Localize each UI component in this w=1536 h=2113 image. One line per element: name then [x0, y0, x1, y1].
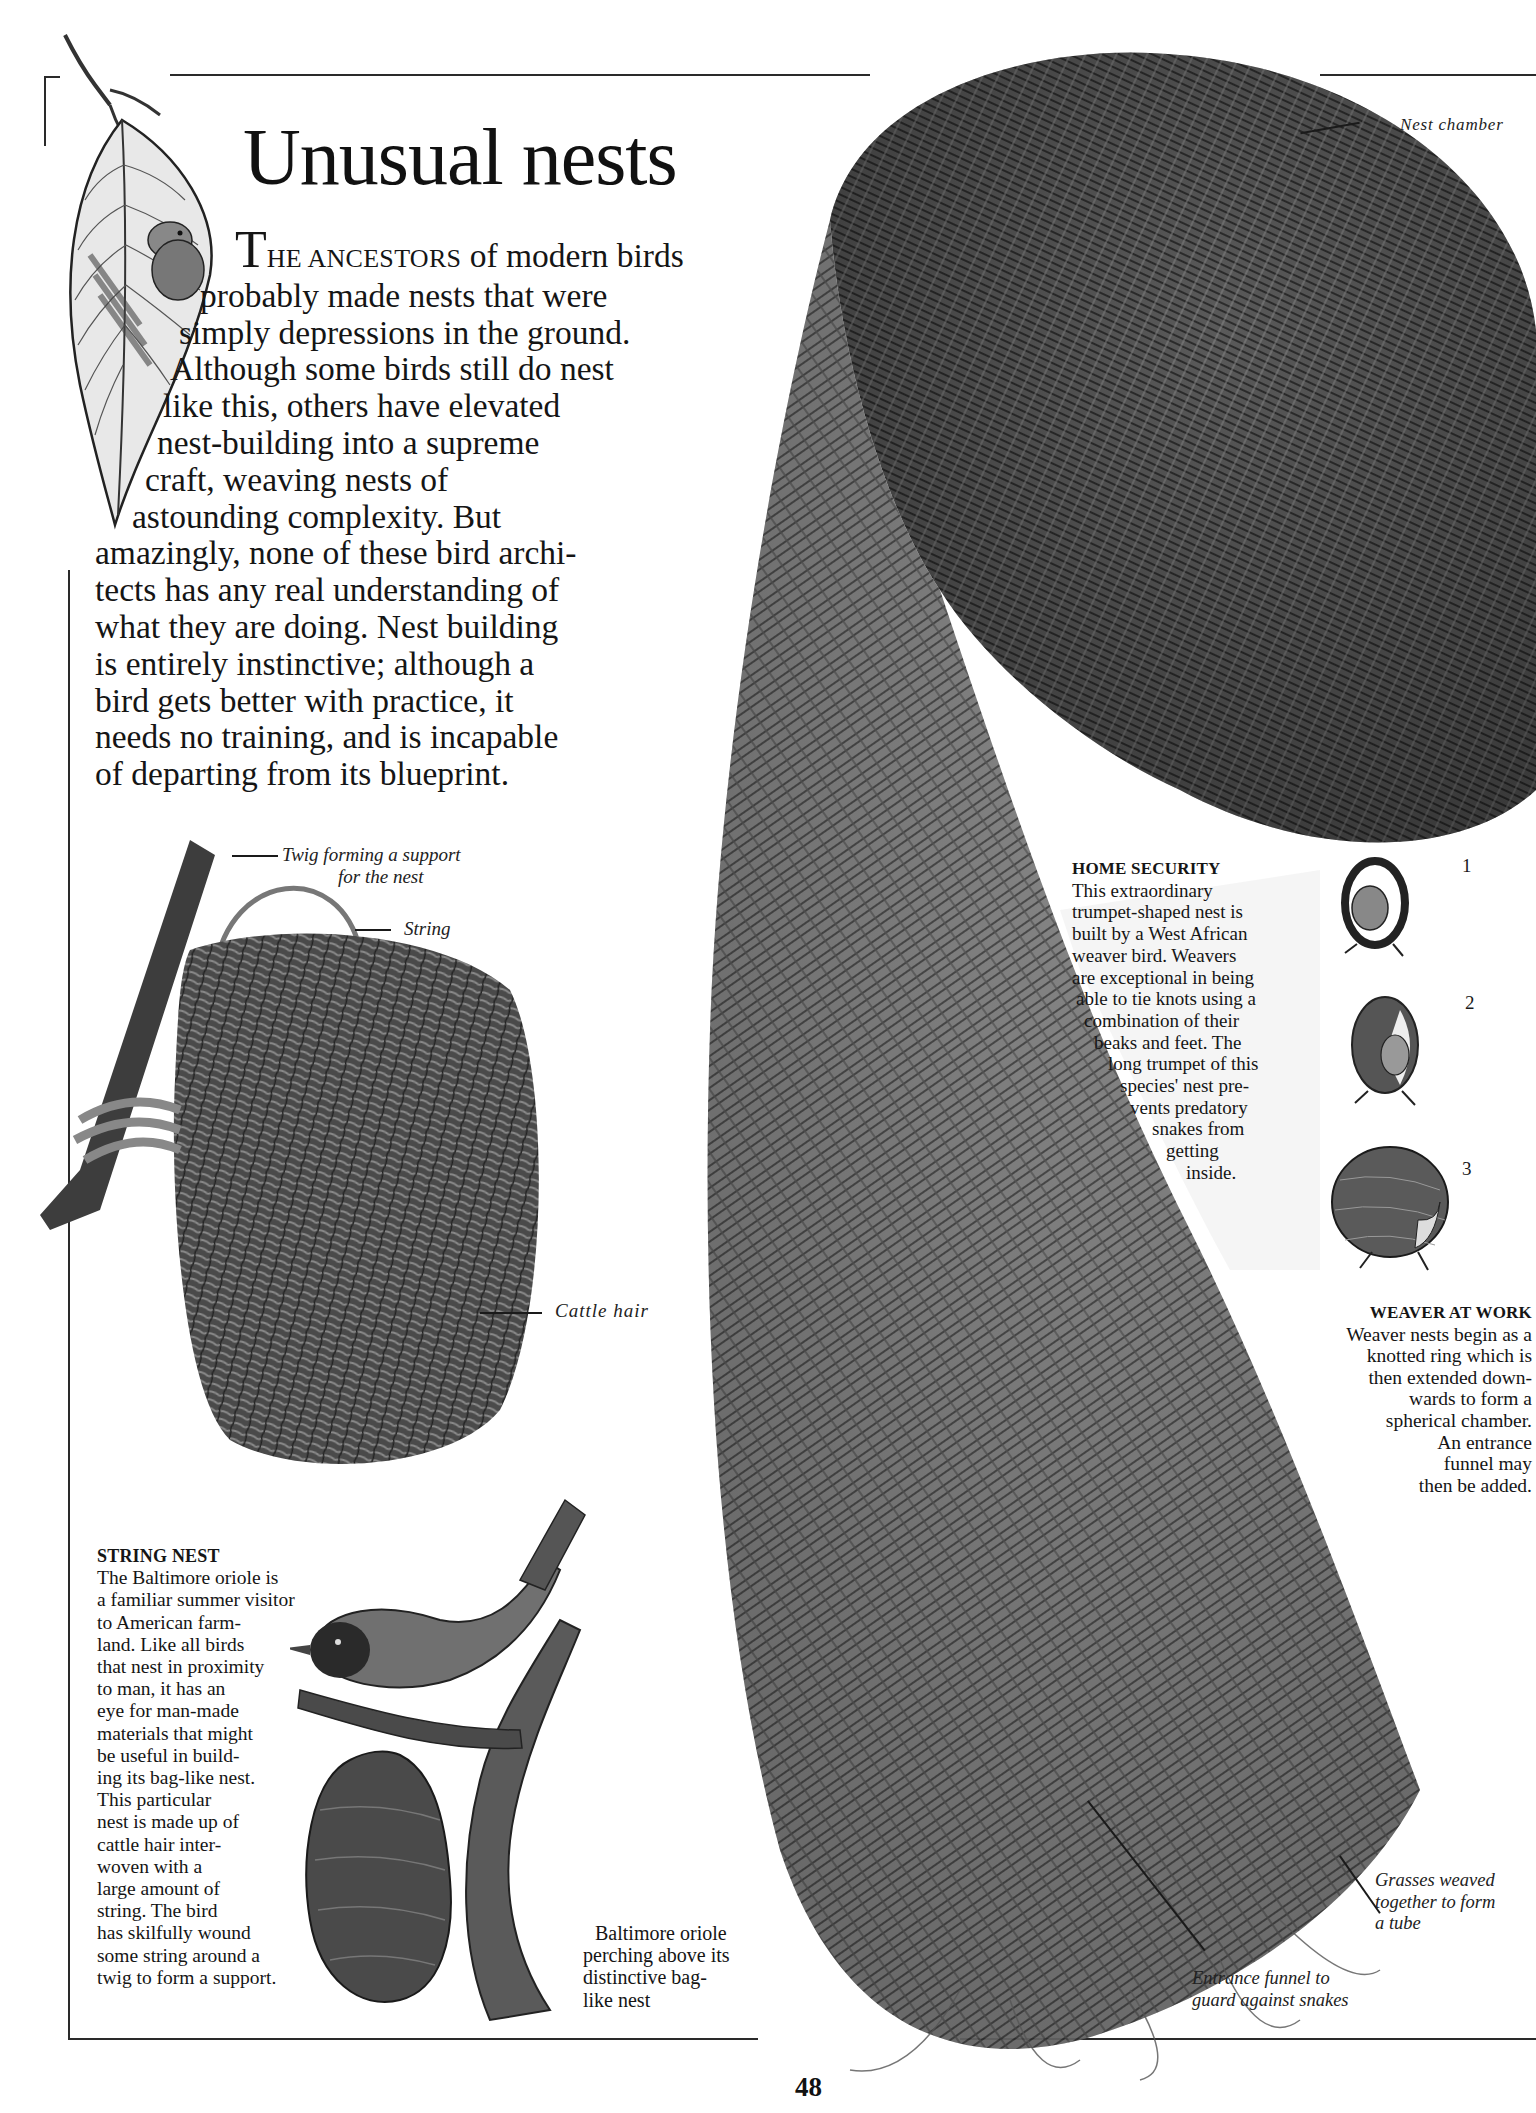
baltimore-oriole-engraving — [290, 1480, 590, 2040]
intro-line: probably made nests that were — [95, 278, 755, 315]
intro-line: tects has any real understanding of — [95, 572, 755, 609]
label-cattle-hair: Cattle hair — [555, 1300, 649, 1322]
intro-line: nest-building into a supreme — [95, 425, 755, 462]
weaver-step-3-number: 3 — [1462, 1158, 1472, 1180]
string-nest-caption: STRING NEST The Baltimore oriole is a fa… — [97, 1545, 295, 1989]
label-nest-chamber: Nest chamber — [1400, 114, 1504, 136]
intro-line: Although some birds still do nest — [95, 351, 755, 388]
weaver-step-3-illustration — [1320, 1130, 1460, 1275]
label-string: String — [404, 918, 450, 940]
leader-string — [355, 929, 391, 931]
intro-paragraph: THE ANCESTORS of modern birds probably m… — [95, 232, 755, 793]
leader-twig — [232, 855, 278, 857]
weaver-step-2-illustration — [1340, 985, 1430, 1115]
small-caps-lead: HE ANCESTORS — [267, 244, 462, 273]
drop-cap: T — [235, 221, 267, 278]
page-title: Unusual nests — [243, 112, 677, 202]
oriole-string-nest-photo — [40, 830, 540, 1480]
intro-line: needs no training, and is incapable — [95, 719, 755, 756]
weaver-step-1-number: 1 — [1462, 855, 1472, 877]
caption-heading: WEAVER AT WORK — [1346, 1302, 1532, 1324]
intro-line: like this, others have elevated — [95, 388, 755, 425]
page-number: 48 — [795, 2072, 822, 2103]
weaver-step-2-number: 2 — [1465, 992, 1475, 1014]
weaver-step-1-illustration — [1335, 848, 1415, 963]
intro-line: craft, weaving nests of — [95, 462, 755, 499]
leader-cattle-hair — [480, 1312, 542, 1314]
weaver-at-work-caption: WEAVER AT WORK Weaver nests begin as a k… — [1346, 1302, 1532, 1496]
home-security-caption: HOME SECURITY This extraordinary trumpet… — [1072, 858, 1258, 1184]
label-twig-support: Twig forming a support for the nest — [282, 844, 461, 888]
intro-line: of departing from its blueprint. — [95, 756, 755, 793]
caption-heading: STRING NEST — [97, 1545, 295, 1567]
intro-line: simply depressions in the ground. — [95, 315, 755, 352]
intro-line: amazingly, none of these bird archi- — [95, 535, 755, 572]
intro-line: is entirely instinctive; although a — [95, 646, 755, 683]
intro-line: bird gets better with practice, it — [95, 683, 755, 720]
intro-line: what they are doing. Nest building — [95, 609, 755, 646]
label-grasses-weaved: Grasses weaved together to form a tube — [1375, 1870, 1495, 1935]
intro-line: THE ANCESTORS of modern birds — [95, 232, 755, 278]
oriole-caption: Baltimore oriole perching above its dist… — [583, 1922, 730, 2011]
intro-line: astounding complexity. But — [95, 499, 755, 536]
label-entrance-funnel: Entrance funnel to guard against snakes — [1192, 1968, 1349, 2011]
frame-left-rule — [44, 76, 46, 146]
caption-heading: HOME SECURITY — [1072, 858, 1258, 880]
